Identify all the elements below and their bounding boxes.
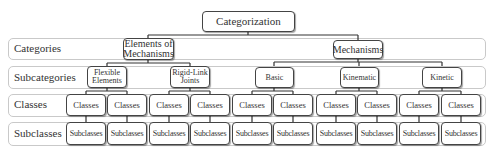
root-label: Categorization — [216, 16, 281, 27]
subclass-node: Subclasses — [316, 122, 356, 145]
class-label: Classes — [114, 101, 140, 110]
subcategory-node-flexible-elements: Flexible Elements — [87, 66, 127, 88]
subclass-node: Subclasses — [399, 122, 439, 145]
subcategory-node-kinetic: Kinetic — [422, 67, 462, 88]
subclass-node: Subclasses — [66, 122, 106, 145]
subcategory-label: Kinetic — [430, 74, 454, 82]
class-node: Classes — [357, 94, 397, 116]
category-node-elements-of-mechanisms: Elements of Mechanisms — [123, 38, 174, 60]
class-node: Classes — [149, 94, 189, 116]
subclass-label: Subclasses — [403, 130, 436, 138]
subcategory-label: Rigid-Link Joints — [171, 69, 209, 85]
class-label: Classes — [197, 101, 223, 110]
class-node: Classes — [232, 94, 272, 116]
subclass-label: Subclasses — [277, 130, 310, 138]
class-node: Classes — [107, 94, 147, 116]
category-label: Mechanisms — [333, 45, 384, 55]
subcategory-node-rigid-link-joints: Rigid-Link Joints — [170, 66, 210, 88]
category-node-mechanisms: Mechanisms — [333, 40, 383, 59]
class-label: Classes — [406, 101, 432, 110]
subclass-node: Subclasses — [441, 122, 481, 145]
subcategory-node-basic: Basic — [255, 67, 294, 88]
subclass-label: Subclasses — [236, 130, 269, 138]
class-node: Classes — [190, 94, 230, 116]
subclass-label: Subclasses — [320, 130, 353, 138]
class-node: Classes — [66, 94, 106, 116]
subcategory-label: Basic — [266, 74, 284, 82]
class-label: Classes — [239, 101, 265, 110]
subclass-node: Subclasses — [357, 122, 397, 145]
subclass-label: Subclasses — [153, 130, 186, 138]
subclass-label: Subclasses — [111, 130, 144, 138]
class-label: Classes — [364, 101, 390, 110]
subcategory-label: Kinematic — [343, 74, 376, 82]
subclass-label: Subclasses — [361, 130, 394, 138]
subcategory-node-kinematic: Kinematic — [340, 67, 379, 88]
subclass-node: Subclasses — [273, 122, 313, 145]
category-label: Elements of Mechanisms — [123, 39, 174, 59]
class-node: Classes — [441, 94, 481, 116]
subcategory-label: Flexible Elements — [88, 69, 126, 85]
subclass-node: Subclasses — [232, 122, 272, 145]
subclass-node: Subclasses — [149, 122, 189, 145]
class-node: Classes — [273, 94, 313, 116]
subclass-label: Subclasses — [70, 130, 103, 138]
class-label: Classes — [280, 101, 306, 110]
class-label: Classes — [448, 101, 474, 110]
class-label: Classes — [156, 101, 182, 110]
subclass-node: Subclasses — [190, 122, 230, 145]
subclass-node: Subclasses — [107, 122, 147, 145]
class-label: Classes — [323, 101, 349, 110]
root-node-categorization: Categorization — [202, 11, 295, 32]
subclass-label: Subclasses — [194, 130, 227, 138]
class-node: Classes — [399, 94, 439, 116]
class-label: Classes — [73, 101, 99, 110]
class-node: Classes — [316, 94, 356, 116]
subclass-label: Subclasses — [445, 130, 478, 138]
